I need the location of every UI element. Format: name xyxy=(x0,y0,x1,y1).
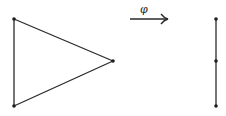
edge-a-c xyxy=(14,19,113,61)
target-path-graph xyxy=(214,17,218,108)
vertex-r xyxy=(214,104,218,108)
vertex-q xyxy=(214,59,218,63)
edge-b-c xyxy=(14,61,113,106)
map-arrow: φ xyxy=(130,3,168,24)
vertex-p xyxy=(214,17,218,21)
map-label-phi: φ xyxy=(140,3,148,16)
vertex-a xyxy=(12,17,16,21)
vertex-c xyxy=(111,59,115,63)
graph-map-diagram: φ xyxy=(0,0,226,116)
source-triangle-graph xyxy=(12,17,115,108)
vertex-b xyxy=(12,104,16,108)
